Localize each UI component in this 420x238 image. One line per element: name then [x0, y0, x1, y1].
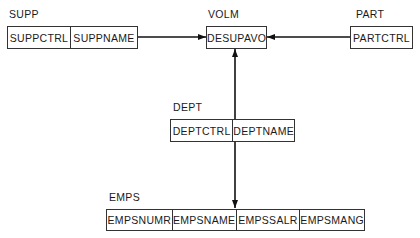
- field-suppname: SUPPNAME: [70, 27, 137, 48]
- entity-label-supp: SUPP: [9, 8, 39, 20]
- field-empsmang: EMPSMANG: [299, 210, 364, 230]
- field-empsnumr: EMPSNUMR: [107, 210, 172, 230]
- entity-label-part: PART: [356, 8, 384, 20]
- field-deptctrl: DEPTCTRL: [171, 120, 232, 141]
- entity-label-volm: VOLM: [208, 8, 239, 20]
- entity-label-emps: EMPS: [109, 191, 140, 203]
- entity-box-part: PARTCTRL: [350, 26, 413, 49]
- entity-box-volm: DESUPAVO: [206, 26, 267, 49]
- field-suppctrl: SUPPCTRL: [8, 27, 70, 48]
- field-desupavo: DESUPAVO: [207, 27, 266, 48]
- entity-box-emps: EMPSNUMR EMPSNAME EMPSSALR EMPSMANG: [106, 209, 365, 231]
- entity-box-supp: SUPPCTRL SUPPNAME: [7, 26, 138, 49]
- field-partctrl: PARTCTRL: [351, 27, 412, 48]
- field-deptname: DEPTNAME: [232, 120, 294, 141]
- field-empsname: EMPSNAME: [172, 210, 236, 230]
- entity-box-dept: DEPTCTRL DEPTNAME: [170, 119, 295, 142]
- field-empssalr: EMPSSALR: [236, 210, 300, 230]
- entity-label-dept: DEPT: [173, 101, 202, 113]
